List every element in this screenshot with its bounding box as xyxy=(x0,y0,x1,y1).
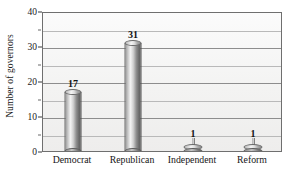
x-tick-label-democrat: Democrat xyxy=(53,154,92,165)
y-tick-label: 30 xyxy=(28,42,38,52)
y-tick-label: 10 xyxy=(28,112,38,122)
bar-value-label: 1 xyxy=(191,128,196,139)
bar-democrat: 17 xyxy=(65,92,82,152)
y-tick-label: 0 xyxy=(32,147,37,157)
bar-value-label: 31 xyxy=(128,29,138,40)
y-tick-label: 20 xyxy=(28,77,38,87)
bar-body xyxy=(185,147,202,151)
y-tick-mark-minor xyxy=(38,99,41,100)
y-axis-title: Number of governors xyxy=(2,0,18,152)
bar-body xyxy=(245,147,262,151)
gridline xyxy=(43,66,281,67)
gridline xyxy=(43,83,281,84)
bar-chart: Number of governors 010203040 173111 Dem… xyxy=(0,0,287,182)
y-tick-mark-minor xyxy=(38,64,41,65)
bar-bottom-ellipse xyxy=(65,148,82,152)
bar-body xyxy=(65,92,82,152)
x-axis-tick-labels: DemocratRepublicanIndependentReform xyxy=(42,154,282,172)
bar-bottom-ellipse xyxy=(184,148,203,152)
bar-body xyxy=(125,43,142,152)
x-tick-label-reform: Reform xyxy=(237,154,267,165)
bar-republican: 31 xyxy=(125,43,142,152)
y-axis-title-text: Number of governors xyxy=(5,34,15,118)
y-tick-mark-minor xyxy=(38,134,41,135)
y-tick-mark-minor xyxy=(38,29,41,30)
plot-area: 173111 xyxy=(42,12,282,152)
bar-value-label: 17 xyxy=(68,78,78,89)
gridline xyxy=(43,31,281,32)
y-axis-tick-labels: 010203040 xyxy=(18,12,38,152)
bar-bottom-ellipse xyxy=(244,148,263,152)
bar-value-label: 1 xyxy=(251,128,256,139)
bar-independent: 1 xyxy=(185,147,202,151)
bar-top-ellipse xyxy=(65,89,82,95)
x-tick-label-republican: Republican xyxy=(110,154,155,165)
bar-bottom-ellipse xyxy=(125,148,142,152)
bar-top-ellipse xyxy=(125,40,142,46)
y-tick-label: 40 xyxy=(28,7,38,17)
x-tick-label-independent: Independent xyxy=(168,154,216,165)
gridline xyxy=(43,48,281,49)
bar-reform: 1 xyxy=(245,147,262,151)
